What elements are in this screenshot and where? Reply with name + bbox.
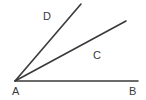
ray-label-d: D [43,11,51,22]
vertex-label-b: B [129,86,136,97]
ray-ac-line [15,21,126,81]
geometry-figure: A B C D [0,0,146,100]
geometry-canvas [0,0,146,100]
ray-label-c: C [93,50,101,61]
vertex-label-a: A [12,86,19,97]
